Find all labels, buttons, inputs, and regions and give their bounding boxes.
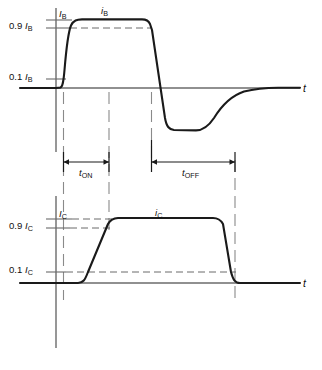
- label-IB: IB: [59, 9, 66, 19]
- label-IC: IC: [59, 209, 67, 219]
- label-top-axis-t: t: [303, 83, 306, 94]
- label-curve-ic: iC: [155, 208, 162, 218]
- label-09IC: 0.9 IC: [9, 221, 33, 231]
- waveform-diagram-svg: [0, 0, 322, 370]
- panel-base-current: [20, 8, 300, 300]
- label-09IB: 0.9 IB: [9, 21, 32, 31]
- label-01IB: 0.1 IB: [9, 72, 32, 82]
- label-bottom-axis-t: t: [303, 278, 306, 289]
- label-ton: tON: [79, 168, 92, 178]
- label-curve-ib: iB: [101, 6, 108, 16]
- label-toff: tOFF: [182, 168, 199, 178]
- label-01IC: 0.1 IC: [9, 265, 33, 275]
- base-current-waveform: [20, 19, 300, 130]
- figure-canvas: IB 0.9 IB 0.1 IB iB t tON tOFF IC 0.9 IC…: [0, 0, 322, 370]
